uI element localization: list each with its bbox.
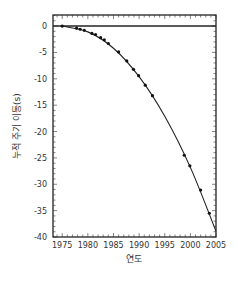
data-point	[117, 50, 120, 53]
data-point	[79, 28, 82, 31]
y-tick-label: -40	[34, 233, 47, 242]
x-tick-label: 1995	[155, 241, 175, 250]
x-tick-label: 1990	[129, 241, 149, 250]
data-point	[199, 188, 202, 191]
data-point	[208, 212, 211, 215]
data-point	[103, 38, 106, 41]
y-tick-label: -25	[34, 154, 47, 163]
x-tick-label: 1985	[103, 241, 123, 250]
x-axis-label: 연도	[126, 254, 142, 264]
x-tick-label: 1980	[78, 241, 98, 250]
y-tick-label: -5	[39, 48, 47, 57]
data-point	[75, 27, 78, 30]
axes: 19751980198519901995200020050-5-10-15-20…	[34, 15, 226, 250]
y-tick-label: -20	[34, 128, 47, 137]
x-tick-label: 2000	[180, 241, 200, 250]
data-point	[125, 59, 128, 62]
data-point	[107, 42, 110, 45]
data-point	[183, 154, 186, 157]
data-point	[137, 74, 140, 77]
data-point	[61, 24, 64, 27]
data-point	[99, 36, 102, 39]
x-tick-label: 2005	[206, 241, 226, 250]
y-tick-label: -35	[34, 207, 47, 216]
plot-area	[53, 24, 216, 231]
prediction-curve	[62, 26, 216, 231]
data-point	[90, 32, 93, 35]
data-point	[94, 33, 97, 36]
data-point	[144, 84, 147, 87]
y-tick-label: -30	[34, 180, 47, 189]
plot-frame	[53, 15, 216, 237]
y-tick-label: -15	[34, 101, 47, 110]
data-point	[83, 29, 86, 32]
data-point	[188, 164, 191, 167]
data-point	[132, 68, 135, 71]
data-point	[151, 94, 154, 97]
y-axis-label: 누적 주기 이동(s)	[11, 93, 22, 158]
y-tick-label: 0	[42, 22, 47, 31]
y-tick-label: -10	[34, 75, 47, 84]
chart: 19751980198519901995200020050-5-10-15-20…	[0, 0, 238, 283]
x-tick-label: 1975	[52, 241, 72, 250]
